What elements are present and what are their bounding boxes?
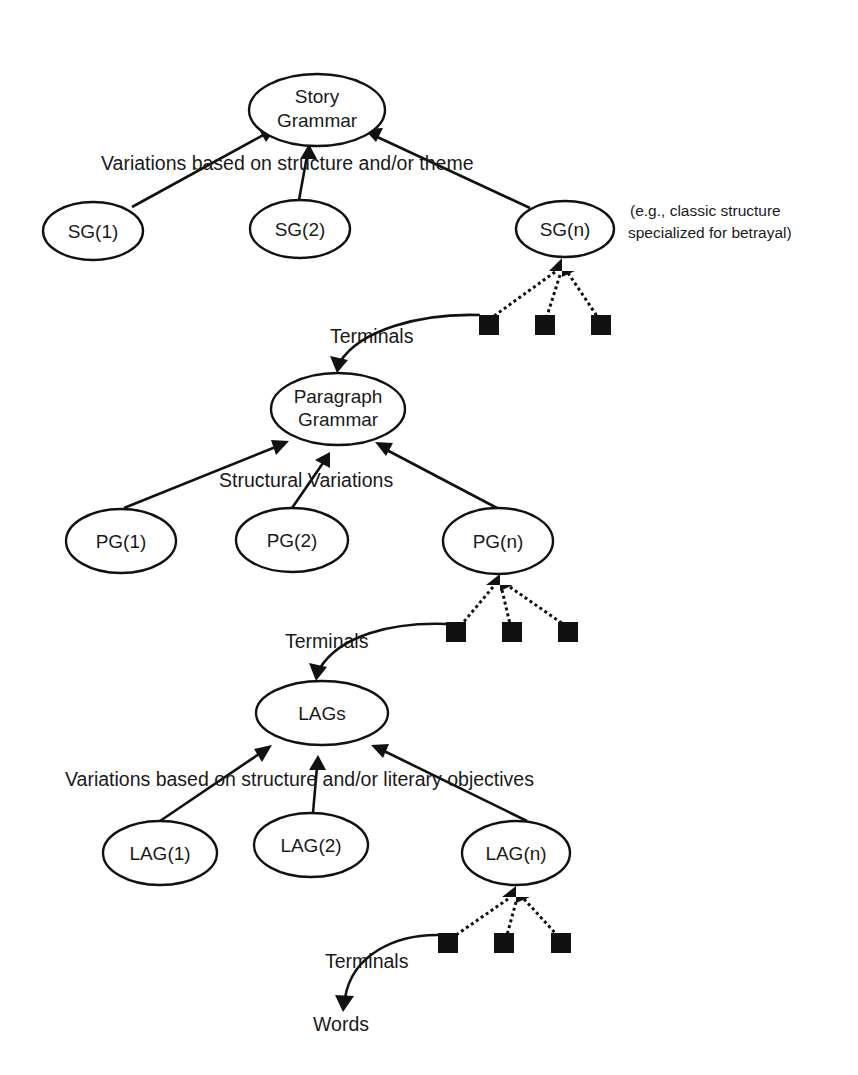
arrowhead-icon	[375, 442, 393, 456]
terminal-square-icon	[551, 933, 571, 953]
terminal-square-icon	[502, 622, 522, 642]
node-lag-n: LAG(n)	[462, 821, 570, 885]
node-paragraph-grammar: Paragraph Grammar	[271, 373, 405, 445]
dotted-link	[510, 587, 563, 624]
arrowhead-icon	[309, 663, 327, 681]
arrowhead-icon	[330, 356, 348, 373]
node-label: SG(2)	[275, 219, 326, 240]
node-lags: LAGs	[256, 681, 388, 745]
node-label: LAG(n)	[485, 843, 546, 864]
terminal-square-icon	[446, 622, 466, 642]
grammar-hierarchy-diagram: Story Grammar Variations based on struct…	[0, 0, 858, 1075]
dotted-link	[507, 902, 516, 935]
edge-label-variations-theme: Variations based on structure and/or the…	[101, 152, 474, 174]
terminals-label: Terminals	[285, 630, 369, 652]
dotted-link	[547, 275, 560, 316]
arrowhead-icon	[335, 995, 354, 1012]
node-pg-1: PG(1)	[66, 509, 176, 573]
node-story-grammar: Story Grammar	[249, 74, 385, 146]
node-lag-1: LAG(1)	[103, 821, 217, 885]
node-label: LAGs	[298, 703, 346, 724]
node-label: Grammar	[298, 409, 379, 430]
lags-level: LAGs Variations based on structure and/o…	[65, 681, 571, 1035]
node-pg-2: PG(2)	[236, 508, 348, 572]
node-label: PG(n)	[473, 531, 524, 552]
arrowhead-icon	[271, 440, 289, 455]
node-label: Story	[295, 86, 340, 107]
dotted-link	[494, 272, 555, 316]
dotted-link	[524, 899, 557, 935]
dotted-link	[568, 273, 597, 316]
paragraph-grammar-level: Paragraph Grammar Structural Variations …	[66, 373, 578, 681]
terminals-label: Terminals	[325, 950, 409, 972]
terminal-square-icon	[438, 933, 458, 953]
node-sg-1: SG(1)	[43, 202, 143, 260]
annotation-note: specialized for betrayal)	[628, 224, 792, 241]
edge-label-variations-literary: Variations based on structure and/or lit…	[65, 768, 534, 790]
story-grammar-level: Story Grammar Variations based on struct…	[43, 74, 792, 373]
node-label: Grammar	[277, 110, 358, 131]
node-label: LAG(1)	[129, 843, 190, 864]
arrowhead-icon	[254, 745, 272, 762]
arrowhead-icon	[486, 574, 513, 591]
words-label: Words	[313, 1013, 369, 1035]
node-pg-n: PG(n)	[443, 508, 553, 574]
dotted-link	[502, 590, 510, 624]
dotted-link	[462, 587, 493, 624]
node-label: SG(1)	[68, 221, 119, 242]
annotation-note: (e.g., classic structure	[630, 202, 781, 219]
terminal-square-icon	[535, 315, 555, 335]
terminal-square-icon	[591, 315, 611, 335]
terminal-square-icon	[558, 622, 578, 642]
node-label: Paragraph	[294, 386, 383, 407]
edge-label-structural-variations: Structural Variations	[219, 469, 393, 491]
node-label: LAG(2)	[280, 835, 341, 856]
node-label: PG(2)	[267, 530, 318, 551]
node-lag-2: LAG(2)	[254, 813, 368, 877]
node-sg-n: SG(n)	[516, 201, 614, 257]
terminal-square-icon	[479, 315, 499, 335]
node-label: PG(1)	[96, 531, 147, 552]
node-sg-2: SG(2)	[250, 200, 350, 258]
edge-pgn-to-paragraph-grammar	[383, 448, 497, 508]
terminal-square-icon	[494, 933, 514, 953]
node-label: SG(n)	[540, 219, 591, 240]
dotted-link	[456, 899, 508, 935]
